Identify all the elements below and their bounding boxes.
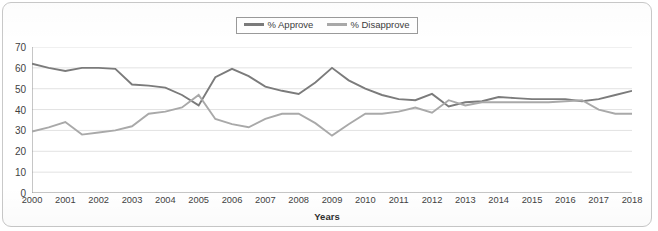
y-tick-label: 50 xyxy=(15,83,26,94)
legend-item-approve: % Approve xyxy=(244,20,313,30)
x-tick-label: 2005 xyxy=(188,195,209,205)
legend-label-disapprove: % Disapprove xyxy=(350,20,409,30)
x-tick-label: 2007 xyxy=(255,195,276,205)
series-line xyxy=(32,95,632,136)
x-tick-label: 2003 xyxy=(122,195,143,205)
chart-legend: % Approve % Disapprove xyxy=(3,17,651,34)
y-tick-label: 60 xyxy=(15,62,26,73)
x-tick-label: 2009 xyxy=(322,195,343,205)
legend-swatch-disapprove-icon xyxy=(327,23,347,26)
x-tick-label: 2000 xyxy=(22,195,43,205)
y-tick-label: 30 xyxy=(15,125,26,136)
legend-box: % Approve % Disapprove xyxy=(236,17,417,34)
x-tick-label: 2017 xyxy=(588,195,609,205)
x-tick-label: 2004 xyxy=(155,195,176,205)
y-tick-label: 20 xyxy=(15,146,26,157)
x-tick-label: 2010 xyxy=(355,195,376,205)
x-axis-labels: 2000200120022003200420052006200720082009… xyxy=(32,195,632,211)
line-chart-svg xyxy=(32,47,632,193)
x-tick-label: 2011 xyxy=(389,195,409,205)
plot-area xyxy=(32,47,632,193)
y-axis-labels: 010203040506070 xyxy=(3,41,29,199)
x-tick-label: 2001 xyxy=(55,195,76,205)
x-tick-label: 2013 xyxy=(455,195,476,205)
x-tick-label: 2012 xyxy=(422,195,443,205)
y-tick-label: 70 xyxy=(15,42,26,53)
x-tick-label: 2016 xyxy=(555,195,576,205)
legend-swatch-approve-icon xyxy=(244,23,264,26)
legend-item-disapprove: % Disapprove xyxy=(327,20,409,30)
x-tick-label: 2015 xyxy=(522,195,543,205)
legend-label-approve: % Approve xyxy=(267,20,313,30)
x-tick-label: 2008 xyxy=(288,195,309,205)
y-tick-label: 10 xyxy=(15,167,26,178)
data-series xyxy=(32,64,632,136)
x-tick-label: 2006 xyxy=(222,195,243,205)
x-tick-label: 2002 xyxy=(88,195,109,205)
y-tick-label: 40 xyxy=(15,104,26,115)
x-tick-label: 2018 xyxy=(622,195,643,205)
series-line xyxy=(32,64,632,107)
x-tick-label: 2014 xyxy=(488,195,509,205)
x-axis-title: Years xyxy=(3,211,651,222)
chart-container: % Approve % Disapprove 010203040506070 2… xyxy=(2,2,652,227)
